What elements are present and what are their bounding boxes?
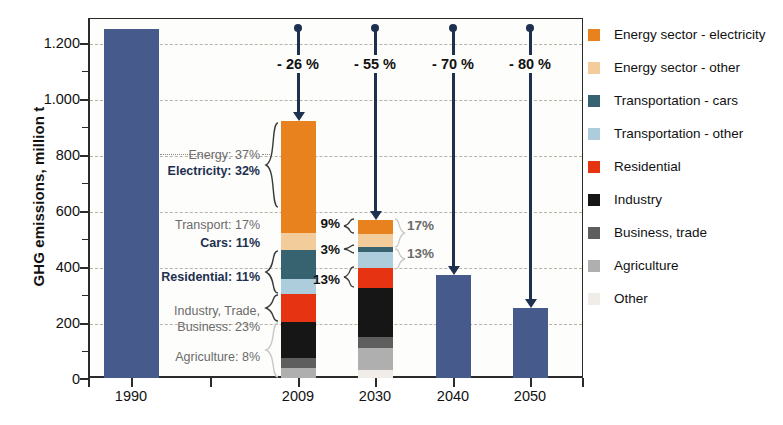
annotation-2009-cars: Cars: 11% — [100, 236, 260, 252]
y-tick-600 — [80, 211, 88, 213]
y-tick-label-800: 800 — [4, 147, 80, 163]
y-tick-400 — [80, 267, 88, 269]
segment-2030-residential — [358, 268, 393, 288]
segment-2009-industry — [281, 322, 316, 358]
x-tick-2009 — [298, 378, 300, 387]
segment-2009-business-trade — [281, 358, 316, 368]
legend-swatch-icon — [588, 128, 600, 140]
x-tick-label-2030: 2030 — [330, 388, 420, 404]
y-tick-1200 — [80, 43, 88, 45]
brace-2030-residential — [342, 266, 356, 288]
brace-2030-transport-right — [393, 248, 407, 270]
legend-item-energy-sector-other[interactable]: Energy sector - other — [588, 51, 783, 84]
bar-2040[interactable] — [436, 275, 471, 378]
brace-2009-residential — [264, 294, 280, 322]
legend-label: Energy sector - other — [614, 60, 740, 75]
brace-2009-energy — [264, 122, 280, 208]
bar-2030-stack[interactable] — [358, 220, 393, 378]
x-tick-2040 — [453, 378, 455, 387]
legend-item-business-trade[interactable]: Business, trade — [588, 216, 783, 249]
gridline-1000 — [90, 100, 582, 101]
segment-2030-agriculture — [358, 348, 393, 370]
brace-2030-cars — [342, 244, 356, 254]
y-tick-label-1200: 1.200 — [4, 35, 80, 51]
x-tick-label-1990: 1990 — [86, 388, 176, 404]
x-tick-sep1 — [210, 378, 212, 387]
legend: Energy sector - electricity Energy secto… — [588, 18, 783, 315]
reduction-label-2050: - 80 % — [485, 55, 575, 73]
y-tick-200 — [80, 323, 88, 325]
y-tick-1000 — [80, 99, 88, 101]
legend-swatch-icon — [588, 161, 600, 173]
y-tick-label-0: 0 — [4, 371, 80, 387]
segment-2030-energy-other — [358, 234, 393, 247]
legend-item-other[interactable]: Other — [588, 282, 783, 315]
annotation-2030-transport-right: 13% — [407, 246, 434, 263]
annotation-2009-residential: Residential: 11% — [100, 270, 260, 286]
x-tick-2050 — [530, 378, 532, 387]
x-tick-1990 — [131, 378, 133, 387]
legend-label: Energy sector - electricity — [614, 27, 766, 42]
reduction-arrowhead-2050 — [525, 299, 537, 308]
bar-2050[interactable] — [513, 308, 548, 378]
reduction-arrowhead-2030 — [370, 211, 382, 220]
annotation-2009-electricity: Electricity: 32% — [100, 164, 260, 180]
ghg-emissions-chart: GHG emissions, million t 1.200 1.000 800… — [0, 0, 783, 425]
legend-swatch-icon — [588, 95, 600, 107]
reduction-arrowhead-2040 — [448, 266, 460, 275]
annotation-2030-residential: 13% — [294, 272, 340, 289]
legend-label: Residential — [614, 159, 681, 174]
annotation-2009-energy: Energy: 37% — [100, 148, 260, 164]
legend-item-transportation-other[interactable]: Transportation - other — [588, 117, 783, 150]
brace-2030-energy-right — [393, 218, 407, 248]
brace-2009-transport — [264, 250, 280, 294]
reduction-label-2030: - 55 % — [330, 55, 420, 73]
legend-swatch-icon — [588, 227, 600, 239]
legend-swatch-icon — [588, 62, 600, 74]
segment-2009-residential — [281, 294, 316, 322]
annotation-2030-electricity: 9% — [300, 216, 340, 233]
legend-label: Business, trade — [614, 225, 707, 240]
segment-2030-industry — [358, 288, 393, 337]
legend-swatch-icon — [588, 293, 600, 305]
y-tick-label-1000: 1.000 — [4, 91, 80, 107]
legend-label: Agriculture — [614, 258, 679, 273]
legend-item-transportation-cars[interactable]: Transportation - cars — [588, 84, 783, 117]
gridline-1200 — [90, 44, 582, 45]
segment-2030-business-trade — [358, 337, 393, 348]
legend-swatch-icon — [588, 29, 600, 41]
segment-2030-energy-electricity — [358, 220, 393, 234]
segment-2009-agriculture — [281, 368, 316, 378]
legend-label: Transportation - other — [614, 126, 743, 141]
annotation-2009-industry-line1: Industry, Trade, — [100, 304, 260, 320]
y-tick-label-400: 400 — [4, 259, 80, 275]
segment-2030-other — [358, 370, 393, 378]
annotation-2030-energy-right: 17% — [407, 218, 434, 235]
gridline-600 — [90, 212, 582, 213]
x-tick-start — [88, 378, 90, 387]
legend-label: Other — [614, 291, 648, 306]
x-tick-label-2050: 2050 — [485, 388, 575, 404]
y-tick-800 — [80, 155, 88, 157]
x-tick-2030 — [375, 378, 377, 387]
annotation-2009-industry-line2: Business: 23% — [100, 320, 260, 336]
legend-item-residential[interactable]: Residential — [588, 150, 783, 183]
legend-label: Industry — [614, 192, 662, 207]
segment-2030-transportation-other — [358, 252, 393, 268]
y-tick-label-200: 200 — [4, 315, 80, 331]
gridline-400 — [90, 268, 582, 269]
x-tick-end — [582, 378, 584, 387]
brace-2030-electricity — [342, 218, 356, 234]
y-tick-label-600: 600 — [4, 203, 80, 219]
leader-2009-energy — [160, 154, 202, 155]
annotation-2009-transport: Transport: 17% — [100, 218, 260, 234]
reduction-arrowhead-2009 — [293, 112, 305, 121]
legend-item-agriculture[interactable]: Agriculture — [588, 249, 783, 282]
annotation-2009-agriculture: Agriculture: 8% — [100, 350, 260, 366]
annotation-2030-cars: 3% — [300, 242, 340, 259]
brace-2009-industry — [264, 322, 280, 378]
legend-swatch-icon — [588, 194, 600, 206]
y-tick-0 — [80, 378, 88, 380]
legend-item-energy-sector-electricity[interactable]: Energy sector - electricity — [588, 18, 783, 51]
legend-item-industry[interactable]: Industry — [588, 183, 783, 216]
